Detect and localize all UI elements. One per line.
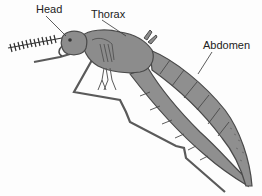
thorax-spines <box>144 30 157 44</box>
thorax <box>82 30 153 73</box>
mouthpart <box>59 46 62 56</box>
label-abdomen: Abdomen <box>203 39 250 51</box>
insect-diagram <box>0 0 262 196</box>
abdomen-upper <box>150 50 252 186</box>
label-head: Head <box>36 3 62 15</box>
antenna <box>8 35 62 52</box>
eye <box>68 38 72 42</box>
label-thorax: Thorax <box>91 8 125 20</box>
front-leg <box>34 54 70 62</box>
